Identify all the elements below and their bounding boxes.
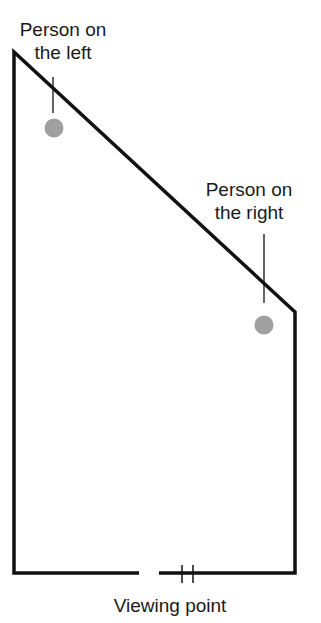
person-right-label-line1: Person on: [193, 178, 305, 201]
room-diagram: [0, 0, 321, 623]
person-left-label-line1: Person on: [8, 18, 118, 41]
person-right-dot: [255, 316, 274, 335]
viewing-point-label: Viewing point: [70, 594, 270, 617]
person-left-dot: [45, 119, 64, 138]
person-right-label-line2: the right: [193, 201, 305, 224]
person-left-label-line2: the left: [8, 41, 118, 64]
person-right-label: Person on the right: [193, 178, 305, 224]
viewing-point-label-text: Viewing point: [70, 594, 270, 617]
person-left-label: Person on the left: [8, 18, 118, 64]
